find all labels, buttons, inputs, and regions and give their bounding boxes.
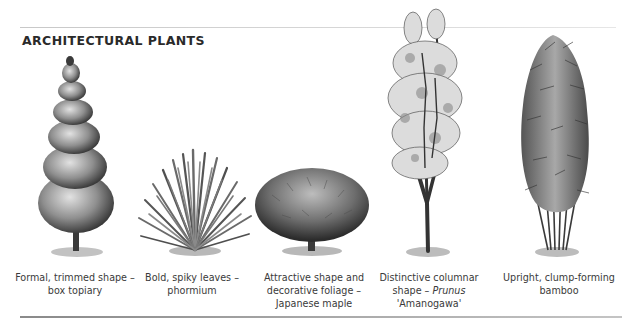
caption-line: Formal, trimmed shape – <box>10 271 140 284</box>
caption-line: shape – Prunus <box>364 284 494 297</box>
caption-box-topiary: Formal, trimmed shape – box topiary <box>10 271 140 297</box>
caption-line: box topiary <box>10 284 140 297</box>
dome-maple-illustration <box>252 165 372 260</box>
plant-japanese-maple <box>252 165 372 260</box>
caption-line: bamboo <box>494 284 624 297</box>
caption-line: decorative foliage – <box>249 284 379 297</box>
caption-genus-italic: Prunus <box>432 285 465 296</box>
caption-prunus-amanogawa: Distinctive columnar shape – Prunus 'Ama… <box>364 271 494 310</box>
caption-line: Attractive shape and <box>249 271 379 284</box>
plant-box-topiary <box>30 55 120 260</box>
caption-phormium: Bold, spiky leaves – phormium <box>127 271 257 297</box>
caption-line: Japanese maple <box>249 297 379 310</box>
caption-japanese-maple: Attractive shape and decorative foliage … <box>249 271 379 310</box>
plant-phormium <box>135 148 255 258</box>
caption-line: phormium <box>127 284 257 297</box>
top-rule <box>20 27 616 28</box>
bottom-rule <box>20 316 622 318</box>
page-title: ARCHITECTURAL PLANTS <box>22 33 205 48</box>
caption-line: 'Amanogawa' <box>364 297 494 310</box>
columnar-cherry-illustration <box>380 8 475 260</box>
upright-bamboo-illustration <box>515 30 605 260</box>
caption-line: Upright, clump-forming <box>494 271 624 284</box>
plant-bamboo <box>515 30 605 260</box>
caption-line: Distinctive columnar <box>364 271 494 284</box>
plant-prunus-amanogawa <box>380 8 475 260</box>
spiral-topiary-illustration <box>30 55 120 260</box>
caption-bamboo: Upright, clump-forming bamboo <box>494 271 624 297</box>
caption-text: shape – <box>393 285 433 296</box>
caption-line: Bold, spiky leaves – <box>127 271 257 284</box>
spiky-phormium-illustration <box>135 148 255 258</box>
